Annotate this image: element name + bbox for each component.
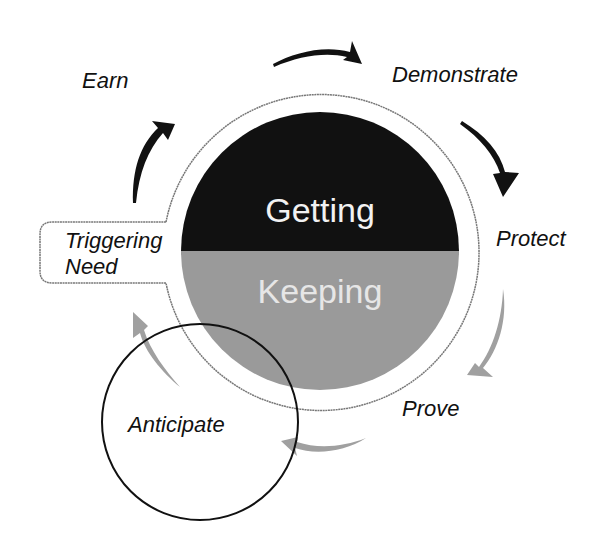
arrow-anticipate-to-need-icon [133, 312, 180, 387]
core-keeping-label: Keeping [258, 272, 383, 310]
stage-label-prove: Prove [402, 396, 459, 421]
stage-label-demonstrate: Demonstrate [392, 62, 518, 87]
core-getting-label: Getting [265, 191, 375, 229]
sales-cycle-diagram: Getting Keeping Earn Demonstrate Protect… [0, 0, 602, 552]
stage-label-anticipate: Anticipate [126, 412, 225, 437]
arrow-demonstrate-to-protect-icon [460, 121, 519, 197]
arrow-need-to-earn-icon [133, 121, 175, 203]
stage-label-protect: Protect [496, 226, 567, 251]
stage-label-earn: Earn [82, 68, 128, 93]
arrow-protect-to-prove-icon [467, 289, 504, 377]
arrow-earn-to-demonstrate-icon [273, 41, 362, 67]
callout-label-line2: Need [65, 254, 118, 279]
callout-label-line1: Triggering [65, 228, 163, 253]
